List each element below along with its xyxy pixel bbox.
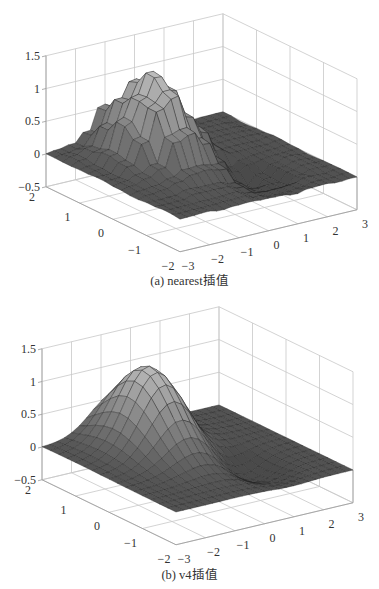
y-tick-label: 2 bbox=[25, 483, 31, 497]
z-tick-label: 0.5 bbox=[25, 114, 40, 128]
z-tick-label: 1.5 bbox=[21, 342, 36, 356]
x-tick-label: 3 bbox=[362, 217, 368, 231]
surface-plot-v4: −0.500.511.5−2−1012−3−2−10123 bbox=[0, 293, 379, 589]
x-tick-label: −1 bbox=[237, 538, 250, 552]
y-tick-label: 0 bbox=[98, 226, 104, 240]
x-tick-label: 3 bbox=[358, 510, 364, 524]
z-tick-label: 0 bbox=[34, 147, 40, 161]
y-tick-label: 1 bbox=[65, 210, 71, 224]
x-tick-label: 2 bbox=[329, 517, 335, 531]
x-tick-label: −1 bbox=[241, 245, 254, 259]
surface-plot-nearest: −0.500.511.5−2−1012−3−2−10123 bbox=[0, 0, 379, 293]
x-tick-label: 0 bbox=[274, 238, 280, 252]
x-tick-label: −2 bbox=[207, 545, 220, 559]
x-tick-label: −2 bbox=[211, 252, 224, 266]
caption-a: (a) nearest插值 bbox=[0, 270, 379, 289]
y-tick-label: −1 bbox=[124, 536, 137, 550]
caption-b: (b) v4插值 bbox=[0, 564, 379, 583]
figure-a-nearest: −0.500.511.5−2−1012−3−2−10123 (a) neares… bbox=[0, 0, 379, 293]
z-tick-label: 1 bbox=[30, 375, 36, 389]
y-tick-label: 0 bbox=[94, 519, 100, 533]
y-tick-label: 2 bbox=[29, 190, 35, 204]
y-tick-label: 1 bbox=[61, 503, 67, 517]
z-tick-label: 0 bbox=[30, 440, 36, 454]
y-tick-label: −1 bbox=[128, 243, 141, 257]
x-tick-label: 2 bbox=[333, 224, 339, 238]
z-tick-label: 1.5 bbox=[25, 49, 40, 63]
z-tick-label: 0.5 bbox=[21, 407, 36, 421]
surface-mesh bbox=[42, 366, 353, 512]
x-tick-label: 1 bbox=[303, 231, 309, 245]
x-tick-label: 1 bbox=[299, 524, 305, 538]
x-tick-label: 0 bbox=[270, 531, 276, 545]
z-tick-label: 1 bbox=[34, 82, 40, 96]
figure-b-v4: −0.500.511.5−2−1012−3−2−10123 (b) v4插值 bbox=[0, 293, 379, 589]
